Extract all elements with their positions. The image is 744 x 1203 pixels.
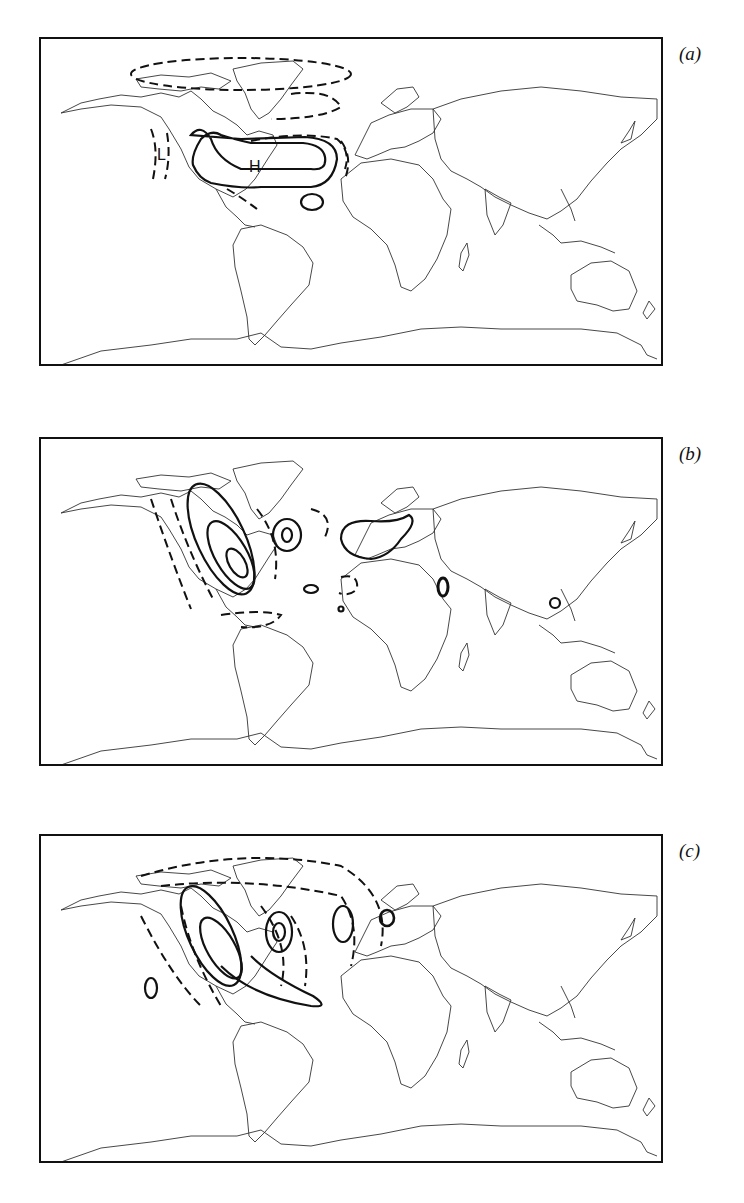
panel-label-b: (b) — [679, 443, 701, 465]
world-map-a: H L — [41, 39, 661, 364]
low-pressure-label: L — [157, 146, 166, 163]
map-panel-a: H L — [39, 37, 663, 366]
panel-label-c: (c) — [679, 840, 700, 862]
high-pressure-label: H — [249, 158, 261, 175]
map-panel-c — [39, 834, 663, 1163]
world-map-c — [41, 836, 661, 1161]
panel-label-a: (a) — [679, 43, 701, 65]
world-map-b — [41, 439, 661, 764]
map-panel-b — [39, 437, 663, 766]
